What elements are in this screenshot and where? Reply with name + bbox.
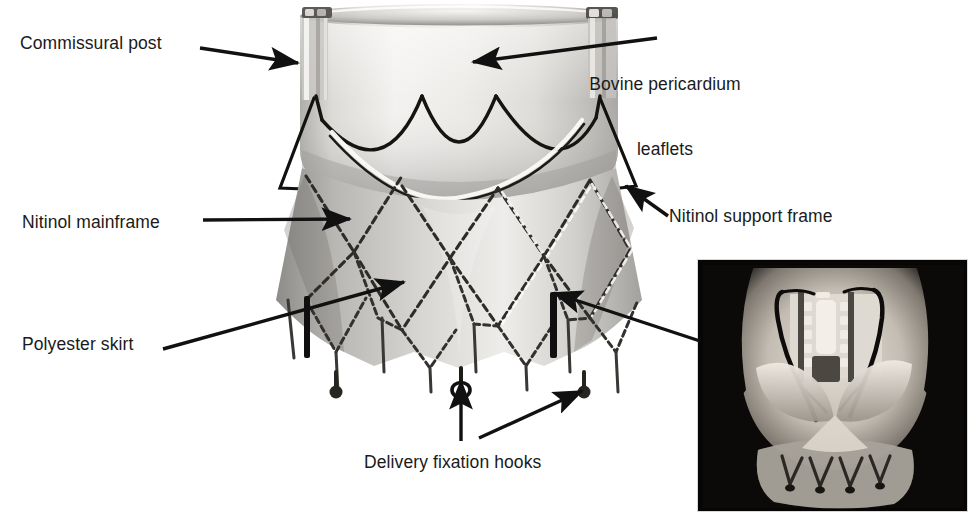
figure-canvas: Commissural post Bovine pericardium leaf… xyxy=(0,0,978,519)
label-polyester-skirt: Polyester skirt xyxy=(22,334,133,356)
label-delivery-fixation-hooks: Delivery fixation hooks xyxy=(364,452,541,474)
label-nitinol-support-frame: Nitinol support frame xyxy=(669,206,833,228)
label-bovine-pericardium-line2: leaflets xyxy=(565,139,765,161)
label-nitinol-mainframe: Nitinol mainframe xyxy=(22,212,160,234)
implanted-valve-inset-image xyxy=(697,259,968,512)
label-bovine-pericardium-leaflets: Bovine pericardium leaflets xyxy=(565,30,765,205)
label-bovine-pericardium-line1: Bovine pericardium xyxy=(565,74,765,96)
fixation-hook-loop xyxy=(452,368,470,398)
label-commissural-post: Commissural post xyxy=(20,33,162,55)
